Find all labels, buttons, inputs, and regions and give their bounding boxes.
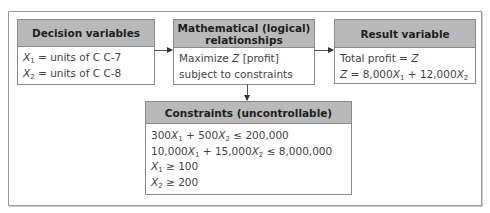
- decision-variables-box: Decision variables X1 = units of C C-7 X…: [17, 19, 155, 85]
- constraint-2: 10,000X1 + 15,000X2 ≤ 8,000,000: [151, 144, 346, 160]
- math-line-1: Maximize Z [profit]: [179, 50, 309, 66]
- constraints-title: Constraints (uncontrollable): [165, 107, 332, 119]
- result-line-2: Z = 8,000X1 + 12,000X2: [340, 66, 470, 82]
- result-variable-title: Result variable: [360, 28, 449, 40]
- constraint-3: X1 ≥ 100: [151, 159, 346, 175]
- math-relationships-box: Mathematical (logical) relationships Max…: [173, 19, 315, 85]
- math-relationships-header: Mathematical (logical) relationships: [174, 20, 314, 48]
- result-variable-header: Result variable: [335, 20, 475, 48]
- decision-variables-header: Decision variables: [18, 20, 154, 47]
- result-variable-body: Total profit = Z Z = 8,000X1 + 12,000X2: [335, 48, 475, 84]
- math-line-2: subject to constraints: [179, 66, 309, 82]
- constraints-box: Constraints (uncontrollable) 300X1 + 500…: [145, 101, 352, 195]
- result-variable-box: Result variable Total profit = Z Z = 8,0…: [334, 19, 476, 84]
- result-line-1: Total profit = Z: [340, 50, 470, 66]
- arrow-decision-to-math: [154, 50, 172, 51]
- arrow-math-to-constraints: [247, 84, 248, 100]
- math-relationships-body: Maximize Z [profit] subject to constrain…: [174, 48, 314, 84]
- decision-variables-body: X1 = units of C C-7 X2 = units of C C-8: [18, 47, 154, 83]
- math-title-line-1: Mathematical (logical): [178, 22, 311, 34]
- math-title-line-2: relationships: [205, 34, 282, 46]
- constraints-header: Constraints (uncontrollable): [146, 102, 351, 124]
- decision-line-2: X2 = units of C C-8: [23, 65, 149, 81]
- constraint-1: 300X1 + 500X2 ≤ 200,000: [151, 128, 346, 144]
- decision-variables-title: Decision variables: [32, 27, 140, 39]
- decision-line-1: X1 = units of C C-7: [23, 49, 149, 65]
- constraints-body: 300X1 + 500X2 ≤ 200,000 10,000X1 + 15,00…: [146, 124, 351, 192]
- arrow-math-to-result: [314, 50, 333, 51]
- constraint-4: X2 ≥ 200: [151, 175, 346, 191]
